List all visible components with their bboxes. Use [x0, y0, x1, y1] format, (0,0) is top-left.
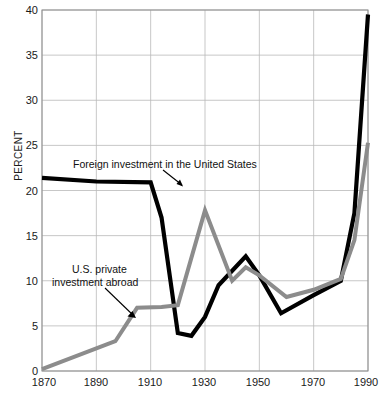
annotation-foreign-investment: Foreign investment in the United States	[73, 158, 257, 171]
annotation-us-private-line2: investment abroad	[52, 276, 138, 289]
arrowhead-foreign-investment	[177, 180, 184, 187]
annotation-us-private-line1: U.S. private	[72, 263, 127, 276]
chart-container: PERCENT 40 35 30 25 20 15 10 5 0 1870 18…	[0, 0, 384, 404]
plot-area	[0, 0, 384, 404]
arrow-us-private	[105, 288, 134, 316]
